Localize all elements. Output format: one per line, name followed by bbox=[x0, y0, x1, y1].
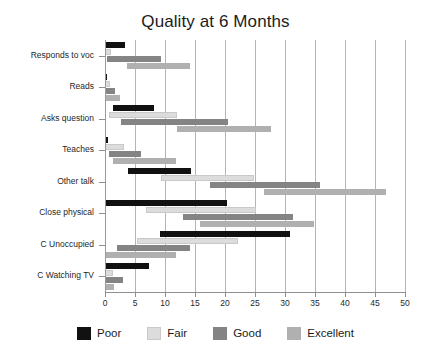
chart-container: Quality at 6 Months Responds to vocReads… bbox=[0, 0, 431, 352]
y-axis-label: C Unoccupied bbox=[0, 239, 94, 249]
bar-poor bbox=[160, 231, 291, 237]
bar-fair bbox=[105, 270, 113, 276]
bar-good bbox=[109, 151, 141, 157]
x-axis-tick bbox=[255, 292, 256, 297]
legend-swatch-icon bbox=[77, 327, 91, 340]
legend-label: Good bbox=[233, 327, 261, 339]
y-axis-tick bbox=[99, 245, 105, 246]
y-axis-label: Close physical bbox=[0, 207, 94, 217]
y-axis-label: Other talk bbox=[0, 176, 94, 186]
bar-excellent bbox=[105, 252, 176, 258]
bar-excellent bbox=[200, 221, 314, 227]
x-axis-tick bbox=[165, 292, 166, 297]
y-axis-label: Teaches bbox=[0, 144, 94, 154]
y-axis-tick bbox=[99, 276, 105, 277]
legend-item-excellent[interactable]: Excellent bbox=[287, 327, 354, 340]
y-axis-tick bbox=[99, 182, 105, 183]
bar-group bbox=[105, 136, 405, 168]
x-axis-tick bbox=[135, 292, 136, 297]
legend-item-fair[interactable]: Fair bbox=[147, 327, 187, 340]
x-axis-tick-label: 35 bbox=[300, 298, 330, 308]
x-axis-tick bbox=[225, 292, 226, 297]
legend-swatch-icon bbox=[147, 327, 161, 340]
bar-excellent bbox=[105, 95, 120, 101]
y-axis-label: Responds to voc bbox=[0, 50, 94, 60]
bar-good bbox=[107, 56, 160, 62]
bar-fair bbox=[146, 207, 256, 213]
bar-fair bbox=[105, 144, 124, 150]
bar-excellent bbox=[113, 158, 176, 164]
x-axis-tick bbox=[195, 292, 196, 297]
x-axis-tick-label: 45 bbox=[360, 298, 390, 308]
y-axis-tick bbox=[99, 119, 105, 120]
x-axis-tick-label: 0 bbox=[90, 298, 120, 308]
legend-swatch-icon bbox=[213, 327, 227, 340]
x-axis-tick-label: 50 bbox=[390, 298, 420, 308]
bar-poor bbox=[113, 105, 154, 111]
bar-good bbox=[210, 182, 320, 188]
plot-area bbox=[105, 40, 405, 292]
x-axis-tick bbox=[105, 292, 106, 297]
y-axis-label: Reads bbox=[0, 81, 94, 91]
bar-poor bbox=[105, 263, 149, 269]
y-axis-label: Asks question bbox=[0, 113, 94, 123]
y-axis-tick bbox=[99, 150, 105, 151]
bar-good bbox=[106, 277, 123, 283]
bar-good bbox=[183, 214, 293, 220]
bar-fair bbox=[137, 238, 237, 244]
x-axis-tick bbox=[285, 292, 286, 297]
y-axis-tick bbox=[99, 56, 105, 57]
bar-group bbox=[105, 167, 405, 199]
x-axis-tick-label: 15 bbox=[180, 298, 210, 308]
bar-good bbox=[106, 88, 116, 94]
bar-group bbox=[105, 230, 405, 262]
bar-group bbox=[105, 262, 405, 294]
bar-poor bbox=[105, 42, 125, 48]
chart-legend: PoorFairGoodExcellent bbox=[0, 322, 431, 344]
bar-excellent bbox=[264, 189, 386, 195]
bar-group bbox=[105, 104, 405, 136]
legend-label: Poor bbox=[97, 327, 121, 339]
legend-label: Fair bbox=[167, 327, 187, 339]
bar-group bbox=[105, 199, 405, 231]
gridline bbox=[405, 40, 406, 292]
legend-item-poor[interactable]: Poor bbox=[77, 327, 121, 340]
bar-fair bbox=[109, 112, 177, 118]
x-axis-tick-label: 25 bbox=[240, 298, 270, 308]
bar-poor bbox=[105, 200, 227, 206]
x-axis-tick-label: 20 bbox=[210, 298, 240, 308]
x-axis-tick bbox=[375, 292, 376, 297]
x-axis-tick-label: 30 bbox=[270, 298, 300, 308]
y-axis-line bbox=[105, 40, 106, 292]
x-axis-tick bbox=[315, 292, 316, 297]
x-axis-tick bbox=[345, 292, 346, 297]
y-axis-label: C Watching TV bbox=[0, 270, 94, 280]
bar-good bbox=[117, 245, 190, 251]
x-axis-tick-label: 40 bbox=[330, 298, 360, 308]
x-axis-tick-label: 10 bbox=[150, 298, 180, 308]
bar-good bbox=[121, 119, 228, 125]
x-axis-tick-label: 5 bbox=[120, 298, 150, 308]
bar-excellent bbox=[105, 284, 114, 290]
bar-excellent bbox=[177, 126, 271, 132]
legend-item-good[interactable]: Good bbox=[213, 327, 261, 340]
legend-swatch-icon bbox=[287, 327, 301, 340]
chart-title: Quality at 6 Months bbox=[0, 12, 431, 32]
legend-label: Excellent bbox=[307, 327, 354, 339]
bar-excellent bbox=[127, 63, 190, 69]
y-axis-tick bbox=[99, 87, 105, 88]
bar-group bbox=[105, 73, 405, 105]
bar-group bbox=[105, 41, 405, 73]
y-axis-tick bbox=[99, 213, 105, 214]
bar-poor bbox=[128, 168, 191, 174]
x-axis-tick bbox=[405, 292, 406, 297]
bar-fair bbox=[161, 175, 255, 181]
